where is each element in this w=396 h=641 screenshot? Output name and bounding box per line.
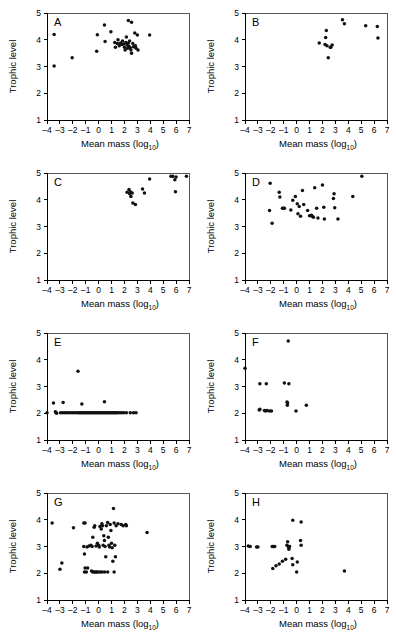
x-tick-label: 0 [294, 125, 299, 135]
x-tick-label: 5 [161, 605, 166, 615]
scatter-panel-b: –4–3–2–10123456712345Mean mass (log10)Tr… [198, 0, 396, 160]
data-point [83, 521, 87, 525]
x-tick-label: 3 [333, 445, 338, 455]
data-point [130, 191, 134, 195]
scatter-panel-c: –4–3–2–10123456712345Mean mass (log10)Tr… [0, 160, 198, 320]
data-points [246, 519, 346, 574]
y-tick-label: 3 [36, 62, 41, 72]
y-tick-label: 4 [36, 35, 41, 45]
data-point [243, 367, 247, 371]
x-tick-label: –1 [279, 445, 289, 455]
y-tick-label: 1 [234, 115, 239, 125]
data-point [301, 189, 305, 193]
data-point [52, 64, 56, 68]
y-tick-label: 1 [234, 595, 239, 605]
plot-frame [245, 13, 387, 120]
panel-letter: H [252, 496, 260, 508]
x-tick-label: 7 [385, 125, 390, 135]
data-point [109, 529, 113, 533]
y-axis-title: Trophic level [205, 200, 216, 254]
data-point [185, 174, 189, 178]
data-point [103, 545, 107, 549]
y-tick-label: 5 [36, 8, 41, 18]
data-point [111, 559, 115, 563]
x-tick-label: –1 [81, 125, 91, 135]
data-point [270, 222, 274, 226]
x-tick-label: 2 [122, 605, 127, 615]
x-tick-label: 4 [148, 605, 153, 615]
data-point [109, 523, 113, 527]
data-point [113, 543, 117, 547]
plot-frame [245, 493, 387, 600]
data-point [322, 205, 326, 209]
x-tick-label: –3 [55, 285, 65, 295]
data-point [333, 206, 337, 210]
data-point [110, 542, 114, 546]
data-point [52, 33, 56, 37]
y-tick-label: 5 [36, 488, 41, 498]
x-tick-label: 5 [359, 285, 364, 295]
data-points [268, 174, 364, 225]
scatter-panel-f: –4–3–2–10123456712345Mean mass (log10)Tr… [198, 320, 396, 480]
data-point [107, 535, 111, 539]
y-tick-label: 1 [36, 115, 41, 125]
y-tick-label: 4 [234, 195, 239, 205]
x-tick-label: 7 [187, 285, 192, 295]
data-point [174, 190, 178, 194]
x-tick-label: 7 [385, 605, 390, 615]
x-tick-label: –1 [279, 605, 289, 615]
x-tick-label: 2 [320, 125, 325, 135]
data-point [45, 411, 49, 415]
y-tick-label: 2 [234, 568, 239, 578]
y-axis-title: Trophic level [205, 520, 216, 574]
data-point [129, 195, 133, 199]
data-point [281, 559, 285, 563]
x-tick-label: –3 [55, 445, 65, 455]
data-point [148, 177, 152, 181]
x-tick-label: –3 [55, 125, 65, 135]
data-point [127, 19, 131, 23]
scatter-panel-g: –4–3–2–10123456712345Mean mass (log10)Tr… [0, 480, 198, 640]
y-tick-label: 5 [234, 8, 239, 18]
x-tick-label: 6 [174, 605, 179, 615]
x-tick-label: 6 [372, 285, 377, 295]
data-point [129, 48, 133, 52]
data-point [258, 382, 262, 386]
data-point [130, 51, 134, 55]
x-tick-label: –4 [240, 605, 250, 615]
data-point [91, 535, 95, 539]
panel-letter: D [252, 176, 260, 188]
y-axis-title: Trophic level [7, 360, 18, 414]
data-point [143, 191, 147, 195]
y-tick-label: 1 [36, 595, 41, 605]
data-point [93, 524, 97, 528]
data-point [306, 209, 310, 213]
data-points [125, 174, 188, 206]
data-points [243, 339, 308, 413]
data-point [72, 526, 76, 530]
data-point [315, 207, 319, 211]
data-point [299, 539, 303, 543]
x-tick-label: 2 [122, 285, 127, 295]
x-tick-label: 4 [148, 445, 153, 455]
data-point [171, 174, 175, 178]
data-point [58, 567, 62, 571]
data-point [312, 215, 316, 219]
x-tick-label: 4 [346, 445, 351, 455]
data-point [116, 38, 120, 42]
data-point [295, 570, 299, 574]
data-point [299, 543, 303, 547]
data-point [323, 217, 327, 221]
x-tick-label: –3 [55, 605, 65, 615]
data-point [174, 175, 178, 179]
x-tick-label: –1 [81, 605, 91, 615]
x-tick-label: 2 [122, 125, 127, 135]
y-tick-label: 5 [36, 168, 41, 178]
x-tick-label: –4 [240, 445, 250, 455]
x-tick-label: –3 [253, 445, 263, 455]
x-tick-label: 7 [385, 285, 390, 295]
x-axis-title: Mean mass (log10) [279, 298, 357, 311]
data-point [376, 25, 380, 29]
x-tick-label: –4 [42, 445, 52, 455]
y-tick-label: 2 [36, 88, 41, 98]
